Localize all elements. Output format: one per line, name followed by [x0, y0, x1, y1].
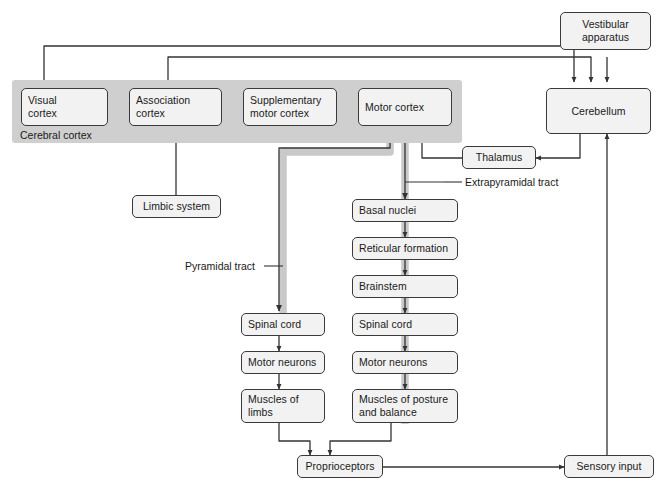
pyramidal-leader-line: [0, 0, 668, 490]
motor-control-diagram: Cerebral cortex Visual cortex Associatio…: [0, 0, 668, 490]
extrapyramidal-tract-label: Extrapyramidal tract: [465, 176, 558, 188]
